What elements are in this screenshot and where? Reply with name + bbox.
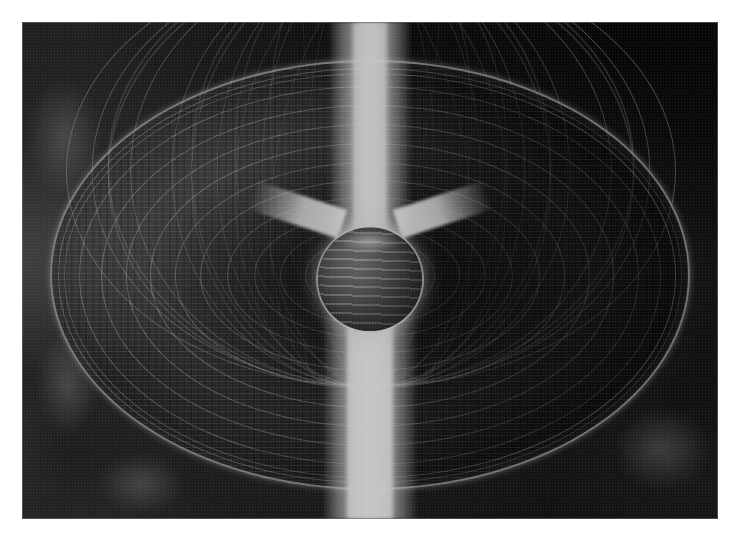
figure-root — [0, 0, 739, 545]
photographic-plate — [22, 22, 718, 519]
sphere-shadow — [318, 227, 422, 331]
central-sphere — [318, 227, 422, 331]
